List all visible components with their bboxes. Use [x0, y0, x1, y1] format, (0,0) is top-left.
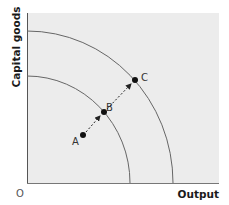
point-a — [80, 132, 86, 138]
origin-label: O — [16, 188, 24, 199]
point-c-label: C — [141, 72, 148, 83]
plot-area — [27, 13, 219, 183]
point-a-label: A — [72, 136, 79, 147]
x-axis-title: Output — [178, 188, 219, 200]
ppf-diagram: A B C Capital goods Output O — [0, 0, 229, 205]
point-c — [132, 77, 138, 83]
point-b-label: B — [106, 102, 113, 113]
y-axis-title: Capital goods — [10, 7, 22, 88]
